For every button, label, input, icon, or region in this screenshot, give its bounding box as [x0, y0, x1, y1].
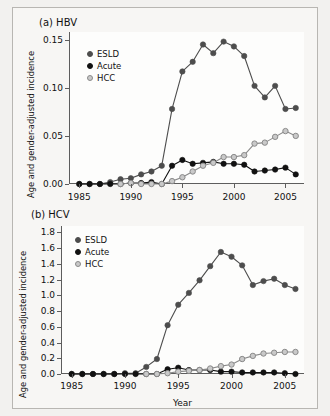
data-point-acute — [271, 370, 276, 375]
x-tick — [72, 374, 73, 378]
y-tick — [57, 232, 61, 233]
data-point-hcc — [169, 178, 174, 183]
y-tick — [57, 358, 61, 359]
data-point-esld — [208, 263, 213, 268]
data-point-hcc — [231, 154, 236, 159]
x-tick-label: 1985 — [60, 381, 83, 391]
data-point-esld — [293, 286, 298, 291]
data-point-hcc — [221, 154, 226, 159]
y-tick — [57, 311, 61, 312]
data-point-hcc — [271, 350, 276, 355]
y-tick-label: 0.2 — [41, 353, 55, 363]
data-point-acute — [262, 168, 267, 173]
series-line-esld — [79, 42, 295, 184]
data-point-acute — [242, 162, 247, 167]
data-point-esld — [293, 105, 298, 110]
data-point-esld — [272, 83, 277, 88]
data-point-acute — [272, 167, 277, 172]
y-tick-label: 1.2 — [41, 275, 55, 285]
data-point-hcc — [190, 169, 195, 174]
x-tick — [234, 184, 235, 188]
data-point-acute — [239, 370, 244, 375]
data-point-hcc — [261, 351, 266, 356]
data-point-hcc — [272, 134, 277, 139]
data-point-hcc — [118, 181, 123, 186]
y-tick — [65, 184, 69, 185]
data-point-esld — [190, 59, 195, 64]
data-point-acute — [252, 169, 257, 174]
y-tick-label: 0.8 — [41, 306, 55, 316]
panel-b-x-axis-label: Year — [173, 398, 192, 408]
figure-frame: (a) HBV Age and gender-adjusted incidenc… — [12, 7, 318, 409]
data-point-hcc — [149, 181, 154, 186]
data-point-hcc — [239, 356, 244, 361]
y-tick-label: 0.6 — [41, 322, 55, 332]
data-point-esld — [186, 290, 191, 295]
data-point-acute — [283, 165, 288, 170]
data-point-hcc — [138, 181, 143, 186]
data-point-esld — [229, 254, 234, 259]
series-line-hcc — [121, 131, 296, 184]
x-tick-label: 1995 — [167, 381, 190, 391]
data-point-esld — [176, 302, 181, 307]
y-tick-label: 0.0 — [41, 369, 55, 379]
data-point-acute — [221, 161, 226, 166]
x-tick-label: 2005 — [273, 381, 296, 391]
data-point-esld — [262, 95, 267, 100]
y-tick-label: 1.8 — [41, 227, 55, 237]
data-point-esld — [239, 263, 244, 268]
data-point-hcc — [293, 349, 298, 354]
data-point-hcc — [293, 133, 298, 138]
y-tick — [57, 374, 61, 375]
data-point-esld — [271, 276, 276, 281]
panel-b-series-layer — [61, 226, 330, 376]
data-point-esld — [282, 282, 287, 287]
data-point-acute — [97, 181, 102, 186]
x-tick-label: 1990 — [113, 381, 136, 391]
panel-a-series-layer — [69, 32, 330, 182]
x-tick-label: 2000 — [220, 381, 243, 391]
data-point-acute — [218, 369, 223, 374]
panel-a-title: (a) HBV — [39, 17, 77, 28]
data-point-acute — [190, 161, 195, 166]
data-point-acute — [250, 370, 255, 375]
y-tick-label: 0.10 — [43, 83, 63, 93]
x-tick — [178, 374, 179, 378]
data-point-acute — [133, 371, 138, 376]
panel-hcv: (b) HCV Age and gender-adjusted incidenc… — [13, 206, 319, 410]
data-point-esld — [252, 83, 257, 88]
x-tick-label: 1990 — [119, 192, 142, 202]
y-tick-label: 0.15 — [43, 35, 63, 45]
x-tick-label: 2000 — [222, 192, 245, 202]
data-point-acute — [90, 371, 95, 376]
data-point-esld — [218, 249, 223, 254]
y-tick — [57, 248, 61, 249]
data-point-acute — [112, 371, 117, 376]
data-point-acute — [293, 371, 298, 376]
data-point-esld — [197, 278, 202, 283]
y-tick — [57, 327, 61, 328]
x-tick-label: 2005 — [274, 192, 297, 202]
panel-b-title: (b) HCV — [31, 209, 70, 220]
data-point-hcc — [250, 353, 255, 358]
data-point-acute — [101, 371, 106, 376]
y-tick-label: 1.6 — [41, 243, 55, 253]
data-point-acute — [108, 181, 113, 186]
data-point-esld — [231, 44, 236, 49]
x-tick — [125, 374, 126, 378]
panel-hbv: (a) HBV Age and gender-adjusted incidenc… — [13, 8, 319, 208]
data-point-acute — [293, 172, 298, 177]
x-tick — [232, 374, 233, 378]
data-point-hcc — [211, 160, 216, 165]
data-point-esld — [169, 106, 174, 111]
data-point-hcc — [197, 367, 202, 372]
data-point-acute — [80, 371, 85, 376]
y-tick — [57, 280, 61, 281]
x-tick — [285, 374, 286, 378]
x-tick — [285, 184, 286, 188]
y-tick-label: 1.4 — [41, 259, 55, 269]
y-tick-label: 0.05 — [43, 131, 63, 141]
y-tick — [65, 40, 69, 41]
y-tick — [65, 88, 69, 89]
x-tick — [79, 184, 80, 188]
